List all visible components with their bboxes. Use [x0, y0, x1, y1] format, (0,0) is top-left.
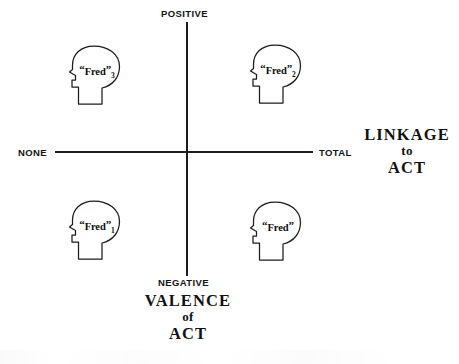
- marker-fred1: “Fred”1: [68, 199, 126, 261]
- vertical-axis-title: VALENCE of ACT: [126, 292, 250, 343]
- marker-subscript-fred1: 1: [111, 226, 115, 235]
- marker-fred3: “Fred”3: [68, 44, 126, 106]
- horizontal-axis-title: LINKAGE to ACT: [355, 126, 459, 177]
- marker-fred2: “Fred”2: [249, 43, 307, 105]
- axis-title-valence-line2: of: [126, 310, 250, 325]
- marker-subscript-fred2: 2: [292, 70, 296, 79]
- marker-name-fred: Fred: [268, 222, 289, 233]
- horizontal-axis-line: [55, 151, 313, 153]
- quadrant-diagram: POSITIVE NEGATIVE NONE TOTAL LINKAGE to …: [0, 0, 459, 364]
- axis-label-positive: POSITIVE: [161, 8, 208, 19]
- axis-title-linkage-line2: to: [355, 144, 459, 159]
- axis-title-valence-line1: VALENCE: [126, 292, 250, 310]
- marker-label-fred1: “Fred”1: [68, 220, 126, 232]
- marker-name-fred1: Fred: [85, 221, 106, 232]
- marker-name-fred3: Fred: [85, 66, 106, 77]
- marker-subscript-fred3: 3: [111, 71, 115, 80]
- axis-title-valence-line3: ACT: [126, 325, 250, 343]
- marker-label-fred: “Fred”: [249, 221, 307, 233]
- marker-name-fred2: Fred: [266, 65, 287, 76]
- axis-title-linkage-line1: LINKAGE: [355, 126, 459, 144]
- axis-label-total: TOTAL: [319, 147, 352, 158]
- marker-fred: “Fred”: [249, 200, 307, 262]
- marker-label-fred2: “Fred”2: [249, 64, 307, 76]
- vertical-axis-line: [186, 22, 188, 276]
- axis-label-none: NONE: [18, 147, 47, 158]
- marker-label-fred3: “Fred”3: [68, 65, 126, 77]
- axis-title-linkage-line3: ACT: [355, 159, 459, 177]
- scan-artifact: [0, 350, 459, 364]
- axis-label-negative: NEGATIVE: [158, 277, 209, 288]
